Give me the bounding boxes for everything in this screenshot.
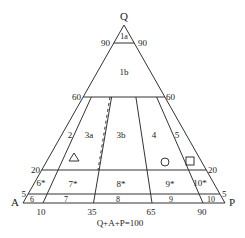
apex-a-label: A [11, 196, 19, 208]
circle-symbol [161, 158, 169, 166]
field-7star: 7* [69, 179, 79, 189]
apex-q-label: Q [120, 10, 128, 22]
field-2: 2 [68, 130, 73, 140]
q60-right-label: 60 [166, 92, 176, 102]
field-7: 7 [64, 195, 68, 204]
q5-left-label: 5 [22, 189, 27, 199]
field-3b: 3b [117, 130, 127, 140]
tick-90: 90 [198, 207, 208, 217]
tick-65: 65 [147, 207, 157, 217]
field-4: 4 [152, 130, 157, 140]
q90-left-label: 90 [101, 38, 111, 48]
field-1a: 1a [120, 32, 128, 41]
field-8star: 8* [117, 179, 127, 189]
field-10star: 10* [193, 178, 207, 188]
q90-right-label: 90 [138, 38, 148, 48]
tick-35: 35 [88, 207, 98, 217]
apex-p-label: P [229, 196, 235, 208]
field-10: 10 [207, 195, 215, 204]
p65-line [136, 97, 152, 203]
q5-right-label: 5 [222, 189, 227, 199]
field-3a: 3a [85, 130, 94, 140]
triangle-symbol [69, 153, 79, 161]
tick-10: 10 [37, 207, 47, 217]
field-6: 6 [30, 195, 34, 204]
field-1b: 1b [120, 67, 130, 77]
q60-left-label: 60 [72, 92, 82, 102]
q20-left-label: 20 [31, 165, 41, 175]
field-9star: 9* [166, 179, 176, 189]
p10-line [43, 97, 91, 203]
q20-right-label: 20 [208, 165, 218, 175]
p35-line [94, 97, 112, 203]
field-8: 8 [116, 195, 120, 204]
triangle-outline [23, 25, 225, 203]
qapf-diagram: Q A P 90 90 60 60 20 20 5 5 10 35 65 90 … [0, 0, 245, 238]
p-3a3b-dashed-line [98, 97, 110, 170]
field-5: 5 [175, 130, 180, 140]
square-symbol [186, 157, 194, 165]
diagram-caption: Q+A+P=100 [97, 218, 144, 228]
field-9: 9 [169, 195, 173, 204]
field-6star: 6* [37, 178, 47, 188]
